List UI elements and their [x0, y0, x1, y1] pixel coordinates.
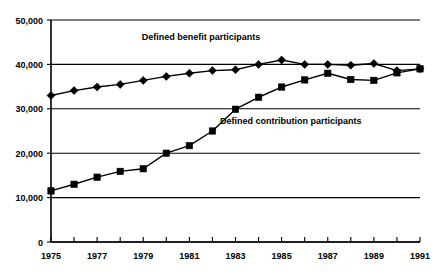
marker-diamond-0-8: [232, 66, 240, 74]
series-line-0: [51, 60, 420, 96]
marker-square-1-14: [371, 77, 377, 83]
marker-diamond-0-14: [370, 60, 378, 68]
marker-diamond-0-5: [162, 72, 170, 80]
chart-container: 010,00020,00030,00040,00050,000197519771…: [0, 0, 438, 274]
marker-diamond-0-13: [347, 61, 355, 69]
marker-square-1-4: [140, 166, 146, 172]
annotation-1: Defined contribution participants: [220, 116, 362, 126]
marker-diamond-0-2: [93, 83, 101, 91]
xtick-label-1989: 1989: [364, 251, 384, 261]
marker-square-1-10: [278, 84, 284, 90]
ytick-label-0: 0: [38, 238, 43, 248]
marker-square-1-16: [417, 66, 423, 72]
xtick-label-1985: 1985: [272, 251, 292, 261]
marker-square-1-6: [186, 142, 192, 148]
annotation-0: Defined benefit participants: [142, 32, 261, 42]
ytick-label-10,000: 10,000: [15, 193, 43, 203]
xtick-label-1975: 1975: [41, 251, 61, 261]
marker-diamond-0-3: [116, 80, 124, 88]
marker-diamond-0-1: [70, 87, 78, 95]
marker-diamond-0-12: [324, 60, 332, 68]
ytick-label-50,000: 50,000: [15, 16, 43, 26]
xtick-label-1981: 1981: [179, 251, 199, 261]
marker-diamond-0-6: [185, 69, 193, 77]
ytick-label-20,000: 20,000: [15, 149, 43, 159]
series-line-1: [51, 69, 420, 191]
marker-square-1-2: [94, 174, 100, 180]
xtick-label-1983: 1983: [225, 251, 245, 261]
marker-square-1-7: [209, 128, 215, 134]
xtick-label-1979: 1979: [133, 251, 153, 261]
marker-square-1-5: [163, 150, 169, 156]
marker-square-1-12: [325, 70, 331, 76]
marker-square-1-9: [255, 94, 261, 100]
marker-square-1-13: [348, 76, 354, 82]
marker-square-1-0: [48, 188, 54, 194]
marker-square-1-1: [71, 181, 77, 187]
marker-diamond-0-0: [47, 91, 55, 99]
marker-diamond-0-10: [278, 56, 286, 64]
marker-diamond-0-7: [208, 67, 216, 75]
xtick-label-1977: 1977: [87, 251, 107, 261]
marker-square-1-3: [117, 168, 123, 174]
xtick-label-1987: 1987: [318, 251, 338, 261]
line-chart: 010,00020,00030,00040,00050,000197519771…: [0, 0, 438, 274]
marker-diamond-0-11: [301, 60, 309, 68]
marker-square-1-8: [232, 106, 238, 112]
marker-square-1-15: [394, 70, 400, 76]
marker-diamond-0-9: [255, 60, 263, 68]
ytick-label-40,000: 40,000: [15, 60, 43, 70]
xtick-label-1991: 1991: [410, 251, 430, 261]
marker-square-1-11: [301, 77, 307, 83]
marker-diamond-0-4: [139, 76, 147, 84]
ytick-label-30,000: 30,000: [15, 104, 43, 114]
